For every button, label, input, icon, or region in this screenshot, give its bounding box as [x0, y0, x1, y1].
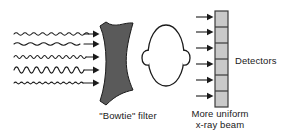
arrowhead-icon: [207, 77, 214, 83]
straight-arrow-2: [196, 29, 214, 35]
arrowhead-icon: [93, 41, 100, 48]
wavy-arrow-2: [14, 41, 100, 48]
wavy-arrow-5: [14, 80, 100, 87]
wavy-arrow-3: [14, 54, 100, 61]
uniform-beam-label-line2: x-ray beam: [182, 119, 258, 130]
ear-right-icon: [183, 50, 190, 65]
arrowhead-icon: [93, 67, 100, 74]
straight-arrow-6: [196, 93, 214, 99]
head-shape: [148, 25, 184, 86]
incoming-wavy-beam-group: [14, 31, 100, 87]
detectors-label: Detectors: [235, 55, 277, 66]
ear-left-icon: [142, 50, 149, 65]
straight-arrow-3: [196, 45, 214, 51]
straight-arrow-5: [196, 77, 214, 83]
wavy-arrow-4: [14, 67, 100, 74]
arrowhead-icon: [207, 14, 214, 20]
straight-arrow-1: [196, 14, 214, 20]
arrowhead-icon: [207, 45, 214, 51]
bowtie-filter-label: "Bowtie" filter: [87, 110, 169, 121]
arrowhead-icon: [93, 80, 100, 87]
detector-array: [215, 11, 228, 107]
patient-head-outline: [142, 25, 190, 86]
straight-arrow-4: [196, 61, 214, 67]
uniform-beam-label: More uniform x-ray beam: [182, 108, 258, 130]
wavy-arrow-1: [14, 31, 100, 38]
outgoing-uniform-beam-group: [196, 14, 214, 99]
uniform-beam-label-line1: More uniform: [182, 108, 258, 119]
arrowhead-icon: [93, 31, 100, 38]
arrowhead-icon: [207, 61, 214, 67]
arrowhead-icon: [207, 29, 214, 35]
arrowhead-icon: [93, 54, 100, 61]
arrowhead-icon: [207, 93, 214, 99]
ct-bowtie-filter-diagram: "Bowtie" filter More uniform x-ray beam …: [0, 0, 295, 138]
bowtie-filter-shape: [100, 22, 133, 105]
